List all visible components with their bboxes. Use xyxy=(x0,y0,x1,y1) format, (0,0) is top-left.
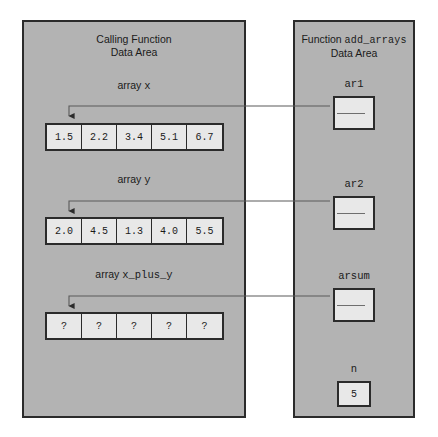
add-arrays-panel: Function add_arraysData Area ar1 ar2 ars… xyxy=(293,20,415,418)
array-group-y: array y 2.0 4.5 1.3 4.0 5.5 xyxy=(24,172,244,186)
array-x-cell-4: 6.7 xyxy=(187,125,222,149)
array-y-cell-4: 5.5 xyxy=(187,219,222,243)
array-x-plus-y-cell-4: ? xyxy=(187,314,222,338)
pointer-ar2-box xyxy=(333,196,375,230)
scalar-n-box: 5 xyxy=(337,381,371,407)
pointer-arsum-box xyxy=(333,288,375,322)
array-x-label: array x xyxy=(24,78,244,92)
array-y-cell-1: 4.5 xyxy=(82,219,117,243)
array-x-plus-y-cell-1: ? xyxy=(82,314,117,338)
pointer-ar2-label: ar2 xyxy=(295,177,413,191)
array-x-cell-3: 5.1 xyxy=(152,125,187,149)
calling-function-title-line1: Calling Function xyxy=(96,33,171,45)
pointer-group-arsum: arsum xyxy=(295,269,413,322)
array-x-row: 1.5 2.2 3.4 5.1 6.7 xyxy=(45,123,224,151)
add-arrays-title-line2: Data Area xyxy=(331,47,378,59)
pointer-arsum-label: arsum xyxy=(295,269,413,283)
calling-function-panel: Calling FunctionData Area array x 1.5 2.… xyxy=(22,20,246,418)
diagram-canvas: Calling FunctionData Area array x 1.5 2.… xyxy=(0,0,438,437)
array-x-cell-1: 2.2 xyxy=(82,125,117,149)
pointer-ar1-box xyxy=(333,96,375,130)
pointer-arsum-stub xyxy=(337,305,365,306)
add-arrays-panel-title: Function add_arraysData Area xyxy=(295,33,413,60)
pointer-ar2-stub xyxy=(337,213,365,214)
pointer-ar1-label: ar1 xyxy=(295,77,413,91)
pointer-group-ar1: ar1 xyxy=(295,77,413,130)
scalar-n-label: n xyxy=(295,362,413,376)
array-y-cell-3: 4.0 xyxy=(152,219,187,243)
array-x-plus-y-label: array x_plus_y xyxy=(24,267,244,281)
pointer-ar1-stub xyxy=(337,113,365,114)
array-y-row: 2.0 4.5 1.3 4.0 5.5 xyxy=(45,217,224,245)
array-group-x: array x 1.5 2.2 3.4 5.1 6.7 xyxy=(24,78,244,92)
array-y-cell-2: 1.3 xyxy=(117,219,152,243)
array-y-label: array y xyxy=(24,172,244,186)
array-x-plus-y-row: ? ? ? ? ? xyxy=(45,312,224,340)
array-x-label-name: x xyxy=(144,80,150,92)
array-x-plus-y-cell-2: ? xyxy=(117,314,152,338)
array-x-plus-y-cell-0: ? xyxy=(47,314,82,338)
array-x-label-prefix: array xyxy=(117,79,141,91)
calling-function-title-line2: Data Area xyxy=(111,46,158,58)
array-x-cell-0: 1.5 xyxy=(47,125,82,149)
array-group-x-plus-y: array x_plus_y ? ? ? ? ? xyxy=(24,267,244,281)
calling-function-panel-title: Calling FunctionData Area xyxy=(24,33,244,59)
add-arrays-title-name: add_arrays xyxy=(345,35,407,46)
scalar-group-n: n 5 xyxy=(295,362,413,407)
array-y-label-name: y xyxy=(144,174,150,186)
add-arrays-title-prefix: Function xyxy=(301,33,341,45)
array-x-plus-y-label-name: x_plus_y xyxy=(122,269,172,281)
array-y-label-prefix: array xyxy=(117,173,141,185)
array-x-cell-2: 3.4 xyxy=(117,125,152,149)
array-y-cell-0: 2.0 xyxy=(47,219,82,243)
array-x-plus-y-cell-3: ? xyxy=(152,314,187,338)
array-x-plus-y-label-prefix: array xyxy=(95,268,119,280)
pointer-group-ar2: ar2 xyxy=(295,177,413,230)
